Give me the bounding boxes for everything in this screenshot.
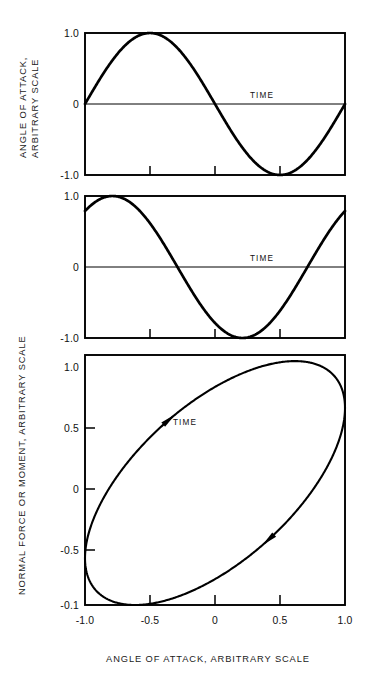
lower-panels-ylabel: NORMAL FORCE OR MOMENT, ARBITRARY SCALE — [17, 335, 27, 595]
panel-bottom: 1.0 0.5 0 -0.5 -0.1 -1.0 -0.5 0 0.5 1.0 … — [60, 355, 352, 626]
panel-middle-ytick-1: 1.0 — [64, 191, 79, 202]
panel-top-ytick-1: 1.0 — [64, 28, 79, 39]
hysteresis-loop — [85, 361, 345, 605]
panel-top: 1.0 0 -1.0 TIME — [60, 28, 345, 181]
figure-root: 1.0 0 -1.0 TIME ANGLE OF ATTACK, ARBITRA… — [0, 0, 368, 697]
panel-top-ylabel-line2: ARBITRARY SCALE — [30, 59, 40, 158]
panel-middle-ytick-3: -1.0 — [60, 333, 79, 344]
panel-bottom-ytick-2: 0.5 — [64, 423, 79, 434]
panel-top-ytick-3: -1.0 — [60, 170, 79, 181]
panel-bottom-ytick-5: -0.1 — [60, 600, 79, 611]
panel-top-time-label: TIME — [250, 91, 274, 100]
panel-bottom-xtick-2: -0.5 — [141, 615, 160, 626]
panel-bottom-xtick-1: -1.0 — [76, 615, 95, 626]
panel-middle: 1.0 0 -1.0 TIME — [60, 191, 345, 344]
panel-top-ylabel-line1: ANGLE OF ATTACK, — [18, 57, 28, 158]
panel-bottom-ytick-4: -0.5 — [60, 545, 79, 556]
panel-top-ylabel: ANGLE OF ATTACK, ARBITRARY SCALE — [18, 57, 40, 158]
figure-xlabel: ANGLE OF ATTACK, ARBITRARY SCALE — [106, 654, 310, 664]
panel-bottom-time-label: TIME — [173, 418, 197, 427]
panel-bottom-ytick-3: 0 — [73, 484, 79, 495]
panel-top-ytick-2: 0 — [73, 99, 79, 110]
panel-bottom-xtick-4: 0.5 — [272, 615, 287, 626]
panel-bottom-ytick-1: 1.0 — [64, 362, 79, 373]
panel-bottom-frame — [85, 355, 345, 605]
panel-middle-time-label: TIME — [250, 254, 274, 263]
panel-bottom-xtick-5: 1.0 — [337, 615, 352, 626]
panel-middle-ytick-2: 0 — [73, 262, 79, 273]
panel-bottom-xtick-3: 0 — [212, 615, 218, 626]
